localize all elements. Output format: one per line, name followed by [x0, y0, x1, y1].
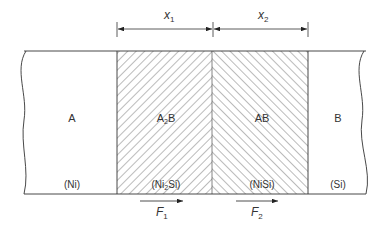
- material-si-label: (Si): [330, 179, 346, 190]
- region-b-label: B: [334, 112, 341, 124]
- material-nisi-label: (NiSi): [250, 179, 275, 190]
- flux-f1-label: F1: [156, 205, 168, 221]
- x2-label: x2: [257, 8, 269, 24]
- flux-f2-label: F2: [251, 205, 263, 221]
- x1-label: x1: [163, 8, 175, 24]
- right-wavy-edge: [359, 51, 367, 194]
- region-ab-label: AB: [255, 112, 270, 124]
- diffusion-couple-diagram: x1 x2 A A2B AB B (Ni) (Ni2Si) (NiSi) (Si…: [0, 0, 389, 227]
- region-a-label: A: [68, 112, 76, 124]
- material-ni-label: (Ni): [64, 179, 80, 190]
- left-wavy-edge: [21, 51, 26, 194]
